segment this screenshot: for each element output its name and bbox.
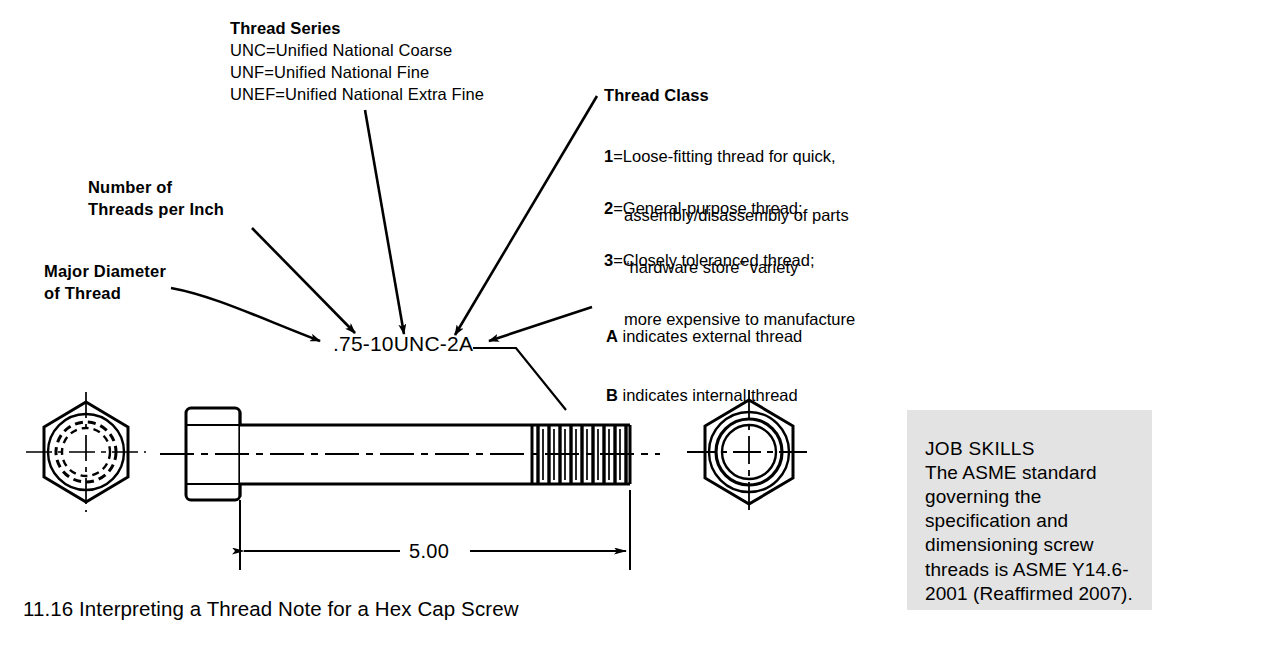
major-diameter-label-line2: of Thread — [44, 283, 121, 303]
thread-series-item-unef: UNEF=Unified National Extra Fine — [230, 84, 484, 104]
figure-canvas: Thread Series UNC=Unified National Coars… — [0, 0, 1262, 671]
hex-head-end-view-left — [26, 392, 146, 512]
job-skills-body: The ASME standard governing the specific… — [925, 461, 1136, 606]
dimension-value-label: 5.00 — [409, 539, 449, 563]
thread-form-legend: A indicates external thread B indicates … — [606, 287, 802, 444]
leader-thread-series — [365, 110, 404, 334]
thread-series-item-unf: UNF=Unified National Fine — [230, 62, 429, 82]
thread-form-text-a: indicates external thread — [618, 327, 802, 345]
threads-per-inch-label-line1: Number of — [88, 177, 172, 197]
thread-form-key-a: A — [606, 327, 618, 345]
threads-per-inch-label-line2: Threads per Inch — [88, 199, 224, 219]
figure-caption: 11.16 Interpreting a Thread Note for a H… — [23, 596, 519, 621]
thread-class-heading: Thread Class — [604, 85, 709, 105]
leader-thread-form — [489, 307, 592, 341]
thread-form-text-b: indicates internal thread — [618, 386, 798, 404]
thread-note-text: .75-10UNC-2A — [333, 331, 473, 357]
thread-form-key-b: B — [606, 386, 618, 404]
job-skills-title: JOB SKILLS — [925, 438, 1136, 460]
hex-cap-screw-side-view — [160, 408, 660, 500]
thread-class-text-3a: =Closely toleranced thread; — [613, 251, 814, 269]
leader-thread-class — [455, 96, 597, 335]
leader-major-diameter — [171, 288, 320, 341]
leader-threads-per-inch — [252, 228, 355, 333]
leader-note-to-thread — [473, 348, 566, 410]
job-skills-box: JOB SKILLS The ASME standard governing t… — [907, 410, 1152, 610]
thread-series-heading: Thread Series — [230, 18, 340, 38]
major-diameter-label-line1: Major Diameter — [44, 261, 166, 281]
thread-class-key-3: 3 — [604, 251, 613, 269]
leader-arrows — [171, 96, 597, 341]
thread-series-item-unc: UNC=Unified National Coarse — [230, 40, 452, 60]
